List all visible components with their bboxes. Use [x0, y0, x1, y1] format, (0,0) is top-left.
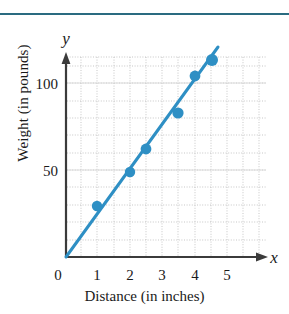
- data-point: [190, 71, 201, 82]
- y-tick-label-50: 50: [43, 163, 58, 179]
- y-axis-label-text: Weight (in pounds): [15, 44, 32, 161]
- data-point: [141, 144, 152, 155]
- y-axis-name: y: [60, 29, 70, 48]
- scatter-plot: x y 100 50 0 1 2 3 4 5: [0, 0, 289, 314]
- x-axis-label: Distance (in inches): [0, 288, 289, 305]
- gridlines-vertical: [81, 57, 259, 256]
- data-point: [206, 54, 218, 66]
- y-tick-label-100: 100: [36, 76, 59, 92]
- x-tick-label-4: 4: [191, 267, 199, 283]
- data-point: [92, 201, 102, 211]
- x-tick-label-1: 1: [93, 267, 101, 283]
- data-point: [125, 167, 135, 177]
- x-tick-label-0: 0: [54, 267, 62, 283]
- x-axis: [66, 253, 268, 262]
- x-axis-name: x: [269, 248, 278, 267]
- x-tick-label-5: 5: [223, 267, 231, 283]
- x-tick-label-3: 3: [158, 267, 166, 283]
- chart-figure: x y 100 50 0 1 2 3 4 5 Weight (in pounds…: [0, 0, 289, 314]
- x-tick-label-2: 2: [126, 267, 134, 283]
- data-point: [172, 107, 183, 118]
- y-axis-label: Weight (in pounds): [12, 18, 34, 188]
